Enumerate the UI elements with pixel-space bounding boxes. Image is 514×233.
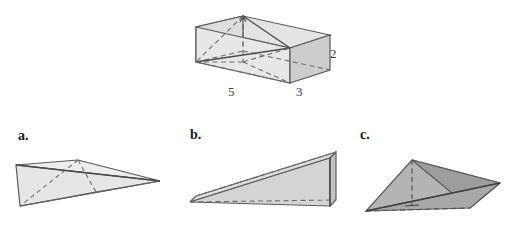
choice-c-figure (366, 160, 500, 211)
dimension-label-depth: 3 (296, 84, 303, 100)
choice-b-figure (190, 152, 336, 206)
dimension-label-height: 2 (330, 46, 337, 62)
rectangular-box-figure (196, 16, 330, 83)
dimension-label-length: 5 (228, 84, 235, 100)
choice-label-b: b. (190, 127, 201, 143)
choice-a-figure (16, 160, 160, 206)
geometry-figure-canvas (0, 0, 514, 233)
choice-b-face-right (330, 152, 336, 206)
choice-b-face-front (190, 158, 330, 206)
choice-label-a: a. (18, 128, 29, 144)
choice-label-c: c. (360, 127, 370, 143)
